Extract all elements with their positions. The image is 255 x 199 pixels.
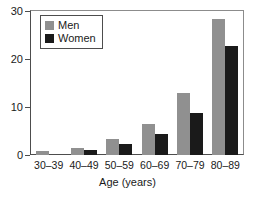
y-axis-tick-label: 20 bbox=[11, 53, 23, 65]
bar-men bbox=[106, 139, 119, 155]
x-axis-tick-label: 70–79 bbox=[172, 158, 207, 172]
bar-group bbox=[137, 11, 172, 155]
y-axis-tick-label: 30 bbox=[11, 5, 23, 17]
bar-women bbox=[155, 134, 168, 155]
bar-men bbox=[142, 124, 155, 155]
y-axis-tick: 10 bbox=[0, 101, 30, 113]
bar-group bbox=[102, 11, 137, 155]
x-axis-tick-labels: 30–3940–4950–5960–6970–7980–89 bbox=[31, 158, 243, 172]
legend-item-women: Women bbox=[45, 32, 96, 45]
bar-men bbox=[71, 148, 84, 155]
x-axis-tick-label: 80–89 bbox=[208, 158, 243, 172]
x-axis-tick-label: 40–49 bbox=[66, 158, 101, 172]
bar-group bbox=[172, 11, 207, 155]
y-axis-tick-mark bbox=[25, 107, 30, 108]
bar-women bbox=[225, 46, 238, 155]
x-axis-tick-label: 60–69 bbox=[137, 158, 172, 172]
chart-legend: Men Women bbox=[40, 15, 103, 49]
bar-women bbox=[84, 150, 97, 155]
legend-item-men: Men bbox=[45, 19, 96, 32]
x-axis-title: Age (years) bbox=[0, 176, 255, 188]
y-axis-tick: 20 bbox=[0, 53, 30, 65]
bar-men bbox=[177, 93, 190, 155]
legend-label-women: Women bbox=[58, 32, 96, 45]
y-axis-tick-label: 10 bbox=[11, 101, 23, 113]
y-axis-tick: 30 bbox=[0, 5, 30, 17]
y-axis-tick: 0 bbox=[0, 149, 30, 161]
legend-swatch-women-icon bbox=[45, 34, 54, 43]
bar-chart-figure: 0102030 30–3940–4950–5960–6970–7980–89 A… bbox=[0, 0, 255, 199]
y-axis-tick-mark bbox=[25, 11, 30, 12]
bar-group bbox=[208, 11, 243, 155]
bar-women bbox=[190, 113, 203, 155]
y-axis: 0102030 bbox=[0, 0, 30, 156]
y-axis-tick-mark bbox=[25, 59, 30, 60]
legend-label-men: Men bbox=[58, 19, 79, 32]
legend-swatch-men-icon bbox=[45, 21, 54, 30]
bar-men bbox=[212, 19, 225, 155]
bar-women bbox=[119, 144, 132, 155]
x-axis-tick-label: 50–59 bbox=[102, 158, 137, 172]
y-axis-tick-mark bbox=[25, 155, 30, 156]
x-axis-tick-label: 30–39 bbox=[31, 158, 66, 172]
bar-men bbox=[36, 151, 49, 155]
y-axis-tick-label: 0 bbox=[17, 149, 23, 161]
